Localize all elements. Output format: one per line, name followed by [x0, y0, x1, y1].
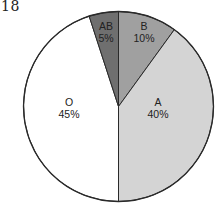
pie-slices — [23, 12, 213, 202]
pie-chart: B10%A40%O45%AB5% — [0, 0, 221, 213]
slice-percent-o: 45% — [58, 108, 79, 120]
slice-percent-a: 40% — [147, 108, 168, 120]
slice-percent-ab: 5% — [98, 32, 113, 44]
slice-name-b: B — [140, 20, 147, 32]
slice-name-o: O — [65, 96, 73, 108]
slice-name-ab: AB — [99, 20, 113, 32]
slice-percent-b: 10% — [133, 32, 154, 44]
slice-name-a: A — [154, 96, 161, 108]
